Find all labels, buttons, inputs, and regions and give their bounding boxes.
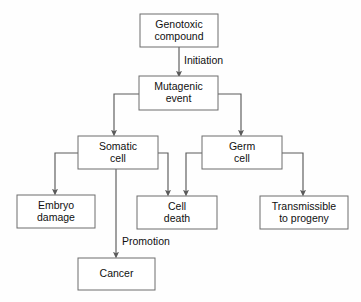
node-somatic-cell[interactable]: Somatic cell — [78, 136, 158, 169]
node-mutagenic-event[interactable]: Mutagenic event — [139, 76, 218, 110]
node-label-embryo-damage-line2: damage — [37, 211, 75, 223]
node-label-mutagenic-event-line1: Mutagenic — [154, 80, 202, 92]
edge-mutagenic-to-somatic — [114, 94, 139, 133]
node-label-transmissible-to-progeny-line1: Transmissible — [272, 200, 337, 212]
node-label-genotoxic-compound-line2: compound — [154, 30, 203, 42]
node-label-germ-cell-line2: cell — [234, 152, 250, 164]
node-germ-cell[interactable]: Germ cell — [202, 136, 282, 169]
node-label-cancer-line1: Cancer — [100, 267, 134, 279]
node-label-embryo-damage-line1: Embryo — [38, 199, 74, 211]
edge-label-promotion: Promotion — [122, 235, 170, 247]
node-label-mutagenic-event-line2: event — [166, 92, 192, 104]
node-label-somatic-cell-line1: Somatic — [99, 140, 137, 152]
node-genotoxic-compound[interactable]: Genotoxic compound — [140, 14, 218, 47]
node-label-cell-death-line1: Cell — [168, 200, 186, 212]
edge-germ-to-transmissible — [282, 153, 303, 193]
edge-germ-to-celldeath — [186, 153, 202, 193]
edge-mutagenic-to-germ — [218, 94, 241, 133]
node-label-transmissible-to-progeny-line2: to progeny — [279, 212, 329, 224]
node-label-somatic-cell-line2: cell — [110, 152, 126, 164]
node-cancer[interactable]: Cancer — [78, 258, 155, 290]
node-label-cell-death-line2: death — [164, 212, 190, 224]
node-label-genotoxic-compound-line1: Genotoxic — [155, 18, 202, 30]
edge-somatic-to-embryo — [55, 153, 78, 192]
node-transmissible-to-progeny[interactable]: Transmissible to progeny — [260, 196, 348, 229]
flowchart-canvas: Genotoxic compound Mutagenic event Somat… — [0, 0, 361, 302]
edge-somatic-to-celldeath — [158, 153, 168, 193]
node-label-germ-cell-line1: Germ — [229, 140, 256, 152]
flowchart-svg: Genotoxic compound Mutagenic event Somat… — [0, 0, 361, 302]
node-cell-death[interactable]: Cell death — [137, 196, 217, 229]
edge-label-initiation: Initiation — [184, 54, 223, 66]
node-embryo-damage[interactable]: Embryo damage — [17, 195, 95, 228]
